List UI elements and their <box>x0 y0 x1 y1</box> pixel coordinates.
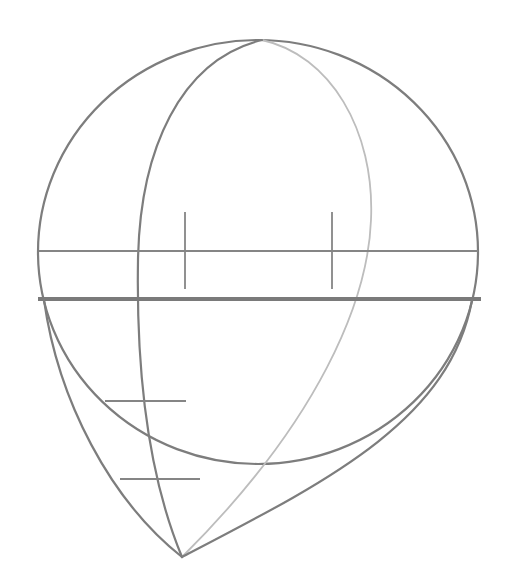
head-construction-drawing <box>0 0 514 582</box>
cranium-circle <box>38 40 478 464</box>
jaw-right-curve <box>182 300 472 557</box>
drawing-svg <box>0 0 514 582</box>
jaw-left-curve <box>44 300 182 557</box>
